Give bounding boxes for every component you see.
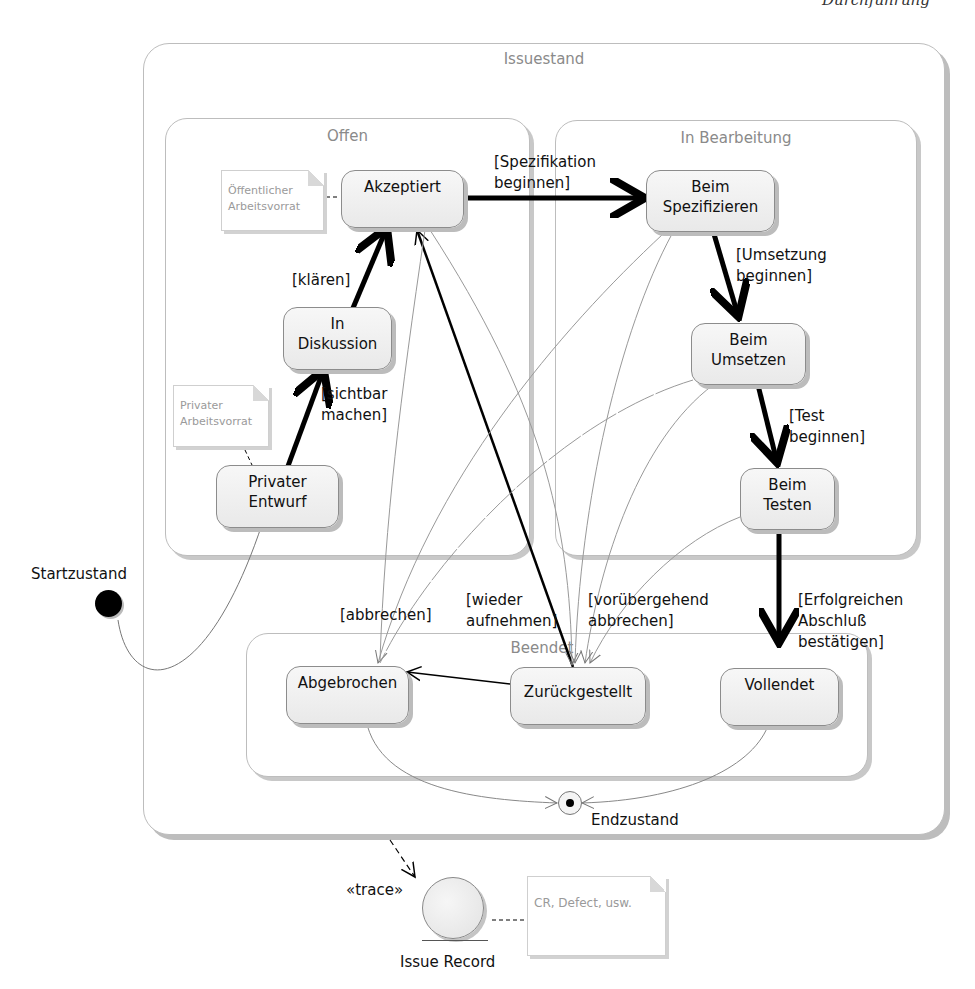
transition-label-sichtbar-machen: [sichtbar machen] — [321, 384, 387, 426]
region-title-beendet: Beendet — [232, 639, 852, 657]
note-issue-record: CR, Defect, usw. — [527, 876, 666, 956]
transition-label-erfolgreichen-abschluss: [Erfolgreichen Abschluß bestätigen] — [798, 590, 903, 653]
trace-stereotype: «trace» — [346, 880, 403, 901]
transition-label-abbrechen: [abbrechen] — [340, 605, 432, 626]
state-abgebrochen[interactable]: Abgebrochen — [286, 666, 409, 724]
region-title-in-bearbeitung: In Bearbeitung — [556, 129, 916, 147]
state-zurueckgestellt[interactable]: Zurückgestellt — [510, 667, 646, 725]
issue-record-label: Issue Record — [400, 952, 495, 973]
end-state-node[interactable] — [558, 791, 582, 815]
region-title-issuestand: Issuestand — [144, 50, 944, 68]
transition-label-spezifikation-beginnen: [Spezifikation beginnen] — [494, 152, 596, 194]
entity-baseline — [422, 940, 488, 941]
state-vollendet[interactable]: Vollendet — [720, 668, 839, 726]
issue-record-entity-icon[interactable] — [422, 877, 484, 939]
end-state-label: Endzustand — [591, 810, 679, 831]
transition-label-klaeren: [klären] — [292, 270, 350, 291]
transition-label-umsetzung-beginnen: [Umsetzung beginnen] — [736, 245, 827, 287]
state-privater-entwurf[interactable]: Privater Entwurf — [216, 465, 339, 528]
transition-label-test-beginnen: [Test beginnen] — [789, 406, 865, 448]
start-state-node[interactable] — [95, 590, 122, 617]
state-akzeptiert[interactable]: Akzeptiert — [341, 170, 464, 228]
note-privater-arbeitsvorrat: Privater Arbeitsvorrat — [173, 385, 269, 447]
clipped-page-title: Durchführung — [822, 0, 930, 9]
transition-label-wieder-aufnehmen: [wieder aufnehmen] — [466, 590, 557, 632]
note-oeffentlicher-arbeitsvorrat: Öffentlicher Arbeitsvorrat — [221, 170, 324, 231]
transition-label-voruebergehend-abbrechen: [vorübergehend abbrechen] — [588, 590, 709, 632]
end-state-inner-dot — [566, 799, 574, 807]
state-beim-spezifizieren[interactable]: Beim Spezifizieren — [646, 170, 775, 232]
state-beim-umsetzen[interactable]: Beim Umsetzen — [691, 323, 806, 385]
state-in-diskussion[interactable]: In Diskussion — [283, 307, 392, 370]
state-beim-testen[interactable]: Beim Testen — [740, 468, 835, 530]
start-state-label: Startzustand — [31, 564, 127, 585]
region-title-offen: Offen — [166, 127, 529, 145]
